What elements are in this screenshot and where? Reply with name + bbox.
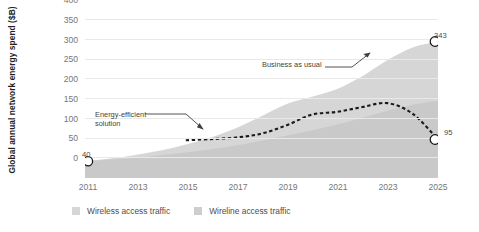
data-label-eff-95: 95 [444, 128, 452, 137]
legend-label-wireless: Wireless access traffic [87, 206, 170, 216]
chart-figure: Global annual network energy spend ($B) … [0, 0, 479, 232]
annotation-energy-efficient-solution: Energy-efficient solution [95, 110, 146, 128]
annotation-business-as-usual: Business as usual [262, 60, 322, 69]
data-label-start-40: 40 [82, 150, 90, 159]
legend-item-wireline-access-traffic[interactable]: Wireline access traffic [194, 206, 290, 216]
annotation-energy-efficient-line-1: Energy-efficient [95, 110, 146, 119]
legend-item-wireless-access-traffic[interactable]: Wireless access traffic [72, 206, 170, 216]
legend-swatch-wireline [194, 207, 202, 215]
legend-label-wireline: Wireline access traffic [209, 206, 290, 216]
legend-swatch-wireless [72, 207, 80, 215]
data-label-bau-343: 343 [434, 31, 447, 40]
annotation-leaders [0, 0, 479, 232]
chart-legend: Wireless access traffic Wireline access … [72, 206, 290, 216]
annotation-energy-efficient-line-2: solution [95, 119, 146, 128]
